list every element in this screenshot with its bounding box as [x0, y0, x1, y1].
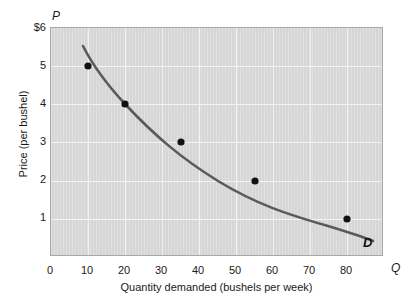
x-tick-label: 10 [67, 265, 107, 276]
x-tick-label: 60 [252, 265, 292, 276]
data-point-marker [121, 100, 128, 107]
x-tick-label: 30 [141, 265, 181, 276]
demand-curve-line [83, 46, 373, 241]
data-point-marker [343, 215, 350, 222]
plot-area: D [50, 27, 383, 256]
y-tick-label: $6 [6, 22, 46, 33]
x-tick-label: 40 [178, 265, 218, 276]
data-point-marker [177, 138, 184, 145]
demand-curve-svg [51, 28, 383, 256]
x-tick-label: 0 [30, 265, 70, 276]
demand-curve-label: D [363, 236, 372, 249]
data-point-marker [84, 62, 91, 69]
y-axis-symbol: P [52, 10, 60, 22]
demand-curve-figure: P Q $6 5 4 3 2 1 Price (per bushel) [0, 0, 411, 303]
x-tick-label: 80 [326, 265, 366, 276]
y-axis-title: Price (per bushel) [17, 49, 29, 219]
x-axis-symbol: Q [391, 262, 400, 274]
x-tick-label: 50 [215, 265, 255, 276]
data-point-marker [251, 177, 258, 184]
x-tick-label: 20 [104, 265, 144, 276]
x-axis-title: Quantity demanded (bushels per week) [50, 281, 383, 293]
x-tick-label: 70 [289, 265, 329, 276]
